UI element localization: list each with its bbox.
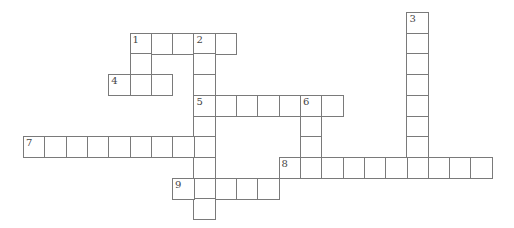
crossword-cell[interactable] (343, 157, 366, 179)
crossword-cell[interactable] (130, 53, 153, 75)
crossword-cell[interactable] (66, 136, 89, 158)
crossword-cell[interactable] (193, 74, 216, 96)
crossword-cell[interactable] (215, 33, 238, 55)
crossword-cell[interactable] (406, 157, 429, 179)
crossword-cell[interactable] (193, 157, 216, 179)
clue-number: 2 (196, 34, 202, 46)
crossword-cell[interactable] (300, 136, 323, 158)
crossword-cell[interactable] (44, 136, 67, 158)
crossword-cell[interactable] (406, 74, 429, 96)
crossword-cell[interactable] (236, 178, 259, 200)
crossword-cell[interactable] (321, 157, 344, 179)
crossword-cell[interactable] (151, 136, 174, 158)
crossword-cell[interactable] (406, 95, 429, 117)
crossword-cell[interactable] (428, 157, 451, 179)
crossword-cell[interactable] (406, 136, 429, 158)
crossword-cell[interactable] (364, 157, 387, 179)
crossword-cell[interactable] (193, 116, 216, 138)
crossword-cell[interactable]: 1 (130, 33, 153, 55)
crossword-cell[interactable] (406, 53, 429, 75)
crossword-cell[interactable] (193, 178, 216, 200)
crossword-cell[interactable]: 9 (172, 178, 195, 200)
crossword-cell[interactable] (193, 53, 216, 75)
crossword-cell[interactable]: 2 (193, 33, 216, 55)
clue-number: 5 (196, 96, 202, 108)
crossword-cell[interactable] (193, 136, 216, 158)
crossword-cell[interactable] (108, 136, 131, 158)
crossword-grid: 125346789 (0, 0, 514, 228)
crossword-cell[interactable] (172, 136, 195, 158)
crossword-cell[interactable] (87, 136, 110, 158)
crossword-cell[interactable] (215, 95, 238, 117)
clue-number: 6 (303, 96, 309, 108)
crossword-cell[interactable] (385, 157, 408, 179)
clue-number: 4 (111, 75, 117, 87)
crossword-cell[interactable] (193, 198, 216, 220)
crossword-cell[interactable] (279, 95, 302, 117)
crossword-cell[interactable] (151, 33, 174, 55)
crossword-cell[interactable]: 5 (193, 95, 216, 117)
crossword-cell[interactable]: 7 (23, 136, 46, 158)
crossword-cell[interactable] (130, 74, 153, 96)
crossword-cell[interactable] (406, 33, 429, 55)
clue-number: 7 (26, 137, 32, 149)
crossword-cell[interactable] (300, 116, 323, 138)
crossword-cell[interactable] (300, 157, 323, 179)
crossword-cell[interactable] (449, 157, 472, 179)
crossword-cell[interactable] (236, 95, 259, 117)
crossword-cell[interactable] (257, 178, 280, 200)
crossword-cell[interactable] (257, 95, 280, 117)
crossword-cell[interactable] (215, 178, 238, 200)
crossword-cell[interactable] (470, 157, 493, 179)
crossword-cell[interactable]: 6 (300, 95, 323, 117)
crossword-cell[interactable]: 4 (108, 74, 131, 96)
crossword-cell[interactable]: 3 (406, 12, 429, 34)
crossword-cell[interactable] (151, 74, 174, 96)
crossword-cell[interactable] (172, 33, 195, 55)
clue-number: 8 (282, 158, 288, 170)
crossword-cell[interactable] (321, 95, 344, 117)
clue-number: 1 (133, 34, 139, 46)
crossword-cell[interactable] (130, 136, 153, 158)
clue-number: 3 (409, 13, 415, 25)
crossword-cell[interactable]: 8 (279, 157, 302, 179)
clue-number: 9 (175, 179, 181, 191)
crossword-cell[interactable] (406, 116, 429, 138)
